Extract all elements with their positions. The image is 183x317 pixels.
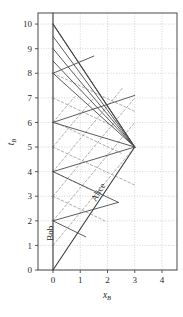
x-tick-label-2: 2: [105, 275, 110, 285]
x-tick-label-0: 0: [51, 275, 56, 285]
y-tick-label-7: 7: [28, 93, 33, 103]
y-tick-label-3: 3: [28, 191, 33, 201]
y-tick-label-6: 6: [28, 118, 33, 128]
y-tick-label-0: 0: [28, 265, 33, 275]
x-axis-title: xB: [102, 290, 111, 301]
chart-canvas: 01234012345678910 BobAlice xB tB: [0, 0, 183, 317]
y-tick-label-10: 10: [23, 19, 33, 29]
y-tick-label-9: 9: [28, 44, 33, 54]
y-tick-label-1: 1: [28, 241, 33, 251]
x-tick-label-1: 1: [78, 275, 83, 285]
y-tick-label-2: 2: [28, 216, 33, 226]
y-axis-title: tB: [6, 139, 17, 146]
x-tick-label-4: 4: [160, 275, 165, 285]
y-tick-label-5: 5: [28, 142, 33, 152]
annotation-bob: Bob: [45, 225, 55, 241]
y-tick-label-4: 4: [28, 167, 33, 177]
spacetime-diagram-figure: 01234012345678910 BobAlice xB tB: [0, 0, 183, 317]
y-tick-label-8: 8: [28, 68, 33, 78]
x-tick-label-3: 3: [133, 275, 138, 285]
